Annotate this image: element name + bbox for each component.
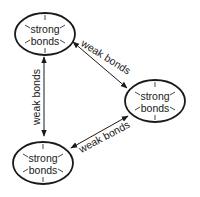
node-label-line1: strong bbox=[28, 152, 57, 164]
node-label-line2: bonds bbox=[31, 35, 60, 47]
node-label-line2: bonds bbox=[29, 164, 58, 176]
node-top-left: strong bonds bbox=[15, 13, 75, 55]
node-label-line1: strong bbox=[30, 23, 59, 35]
edge-label: weak bonds bbox=[30, 69, 42, 126]
edge-label: weak bonds bbox=[76, 118, 132, 155]
edge-bottom-left-right: weak bonds bbox=[71, 116, 132, 155]
node-bottom-left: strong bonds bbox=[13, 142, 73, 184]
edge-top-left-right: weak bonds bbox=[73, 36, 133, 88]
bonds-diagram: weak bonds weak bonds weak bonds strong … bbox=[0, 0, 200, 197]
node-label-line1: strong bbox=[140, 90, 169, 102]
edge-top-left-bottom-left: weak bonds bbox=[30, 57, 44, 136]
node-right: strong bonds bbox=[125, 80, 185, 122]
node-label-line2: bonds bbox=[141, 102, 170, 114]
